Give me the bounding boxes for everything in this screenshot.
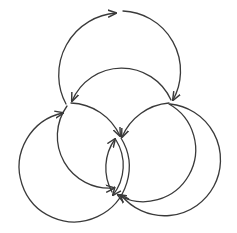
arc-arrow-right-upper-to-center	[122, 103, 169, 137]
arc-arrow-left-inner-down	[57, 106, 114, 188]
arc-arrow-right-inner-down	[118, 104, 196, 202]
arc-arrow-left-outer	[19, 113, 129, 222]
arc-arrow-right-outer	[121, 104, 220, 216]
arc-arrow-left-upper-to-center	[71, 103, 120, 136]
arc-arrow-center-left-up	[106, 139, 115, 192]
arc-arrow-mid-top	[72, 68, 171, 101]
arc-arrow-top-right	[123, 11, 181, 100]
trefoil-arc-diagram	[0, 0, 237, 233]
arc-arrow-center-right-down	[113, 140, 123, 195]
arc-group	[19, 11, 220, 222]
arc-arrow-top-left	[59, 13, 116, 104]
